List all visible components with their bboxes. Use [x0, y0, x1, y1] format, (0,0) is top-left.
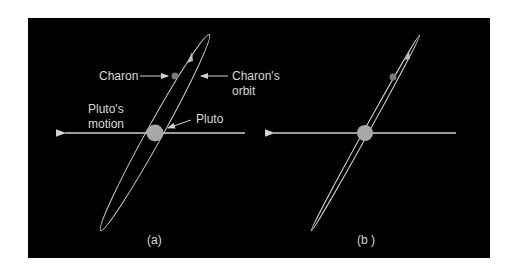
panel-b-caption: (b ): [357, 233, 375, 247]
charon-body: [390, 74, 397, 81]
pluto-body: [147, 125, 164, 142]
diagram-background: [28, 18, 490, 258]
pluto-motion-label-line2: motion: [88, 117, 124, 131]
pluto-label: Pluto: [196, 112, 224, 126]
charon-body: [172, 73, 179, 80]
pluto-motion-label-line1: Pluto's: [88, 102, 124, 116]
charon-orbit-label-line2: orbit: [232, 84, 256, 98]
pluto-body: [357, 125, 373, 141]
charon-orbit-label-line1: Charon's: [232, 69, 280, 83]
panel-a-caption: (a): [147, 233, 162, 247]
charon-label: Charon: [99, 69, 138, 83]
pluto-charon-diagram: Charon Charon's orbit Pluto's motion Plu…: [0, 0, 510, 272]
